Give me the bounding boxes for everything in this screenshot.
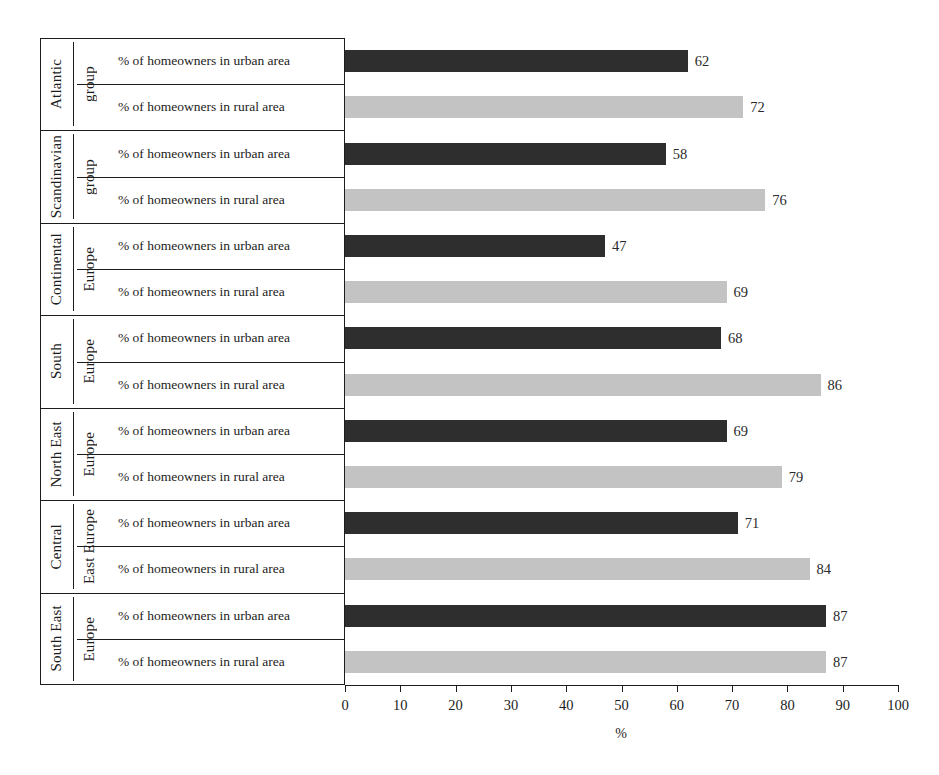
bar-value-label: 68 — [728, 327, 743, 349]
series-label-text: % of homeowners in urban area — [118, 146, 290, 162]
x-axis-tick — [787, 685, 788, 692]
series-label-text: % of homeowners in rural area — [118, 561, 285, 577]
category-label-line1: Atlantic — [40, 38, 73, 130]
x-axis-tick — [843, 685, 844, 692]
bar-rural — [345, 651, 826, 673]
bar-urban — [345, 235, 605, 257]
bar-urban — [345, 143, 666, 165]
series-label-urban: % of homeowners in urban area — [105, 593, 345, 639]
x-axis-tick — [456, 685, 457, 692]
x-axis-tick-label: 30 — [504, 697, 519, 714]
bar-value-label: 69 — [734, 281, 749, 303]
series-label-rural: % of homeowners in rural area — [105, 177, 345, 223]
series-label-rural: % of homeowners in rural area — [105, 546, 345, 592]
series-label-urban: % of homeowners in urban area — [105, 130, 345, 176]
row-separator — [77, 269, 345, 270]
bar-rural — [345, 96, 743, 118]
x-axis-tick-label: 50 — [614, 697, 629, 714]
row-separator — [77, 84, 345, 85]
series-label-urban: % of homeowners in urban area — [105, 223, 345, 269]
bar-value-label: 84 — [817, 558, 832, 580]
series-label-rural: % of homeowners in rural area — [105, 84, 345, 130]
x-axis-title: % — [615, 726, 627, 742]
category-label-text: Atlantic — [49, 59, 64, 109]
x-axis-tick-label: 0 — [341, 697, 348, 714]
bar-rural — [345, 558, 810, 580]
series-label-text: % of homeowners in urban area — [118, 53, 290, 69]
x-axis-tick — [898, 685, 899, 692]
bar-urban — [345, 327, 721, 349]
category-label-text: South East — [49, 605, 64, 672]
series-label-text: % of homeowners in urban area — [118, 608, 290, 624]
bar-rural — [345, 281, 727, 303]
bar-value-label: 79 — [789, 466, 804, 488]
x-axis-tick-label: 70 — [725, 697, 740, 714]
category-column-divider — [73, 504, 74, 588]
x-axis-tick — [732, 685, 733, 692]
category-label-text: South — [49, 343, 64, 379]
x-axis-tick-label: 80 — [780, 697, 795, 714]
series-label-rural: % of homeowners in rural area — [105, 269, 345, 315]
series-label-urban: % of homeowners in urban area — [105, 315, 345, 361]
series-label-text: % of homeowners in rural area — [118, 192, 285, 208]
series-label-text: % of homeowners in urban area — [118, 423, 290, 439]
category-column-divider — [73, 412, 74, 496]
category-label-line1: Continental — [40, 223, 73, 315]
x-axis-tick — [511, 685, 512, 692]
series-label-text: % of homeowners in urban area — [118, 238, 290, 254]
series-label-text: % of homeowners in rural area — [118, 469, 285, 485]
bar-value-label: 58 — [673, 143, 688, 165]
series-label-text: % of homeowners in rural area — [118, 99, 285, 115]
series-label-rural: % of homeowners in rural area — [105, 639, 345, 685]
x-axis-tick-label: 100 — [887, 697, 909, 714]
series-label-urban: % of homeowners in urban area — [105, 500, 345, 546]
bar-rural — [345, 466, 782, 488]
category-column-divider — [73, 134, 74, 218]
x-axis-tick — [622, 685, 623, 692]
bar-urban — [345, 420, 727, 442]
x-axis-tick-label: 90 — [835, 697, 850, 714]
x-axis-tick-label: 20 — [448, 697, 463, 714]
bar-urban — [345, 605, 826, 627]
bar-rural — [345, 374, 821, 396]
bar-urban — [345, 50, 688, 72]
category-label-text: North East — [49, 421, 64, 488]
series-label-text: % of homeowners in rural area — [118, 284, 285, 300]
row-separator — [77, 454, 345, 455]
bar-value-label: 87 — [833, 605, 848, 627]
row-separator — [77, 177, 345, 178]
x-axis-tick — [677, 685, 678, 692]
x-axis-tick-label: 40 — [559, 697, 574, 714]
series-label-rural: % of homeowners in rural area — [105, 362, 345, 408]
category-label-text: Scandinavian — [49, 135, 64, 218]
category-label-line1: Scandinavian — [40, 130, 73, 222]
row-separator — [77, 362, 345, 363]
category-column-divider — [73, 319, 74, 403]
x-axis-tick-label: 10 — [393, 697, 408, 714]
series-label-text: % of homeowners in rural area — [118, 654, 285, 670]
category-column-divider — [73, 597, 74, 681]
category-label-line1: Central — [40, 500, 73, 592]
bar-value-label: 62 — [695, 50, 710, 72]
series-label-urban: % of homeowners in urban area — [105, 38, 345, 84]
series-label-text: % of homeowners in rural area — [118, 377, 285, 393]
bar-value-label: 47 — [612, 235, 627, 257]
category-column-divider — [73, 227, 74, 311]
x-axis-tick-label: 60 — [670, 697, 685, 714]
bar-value-label: 72 — [750, 96, 765, 118]
series-label-urban: % of homeowners in urban area — [105, 408, 345, 454]
series-label-text: % of homeowners in urban area — [118, 330, 290, 346]
bar-urban — [345, 512, 738, 534]
category-label-line1: South — [40, 315, 73, 407]
category-label-text: Continental — [49, 233, 64, 305]
row-separator — [77, 546, 345, 547]
bar-value-label: 69 — [734, 420, 749, 442]
bar-value-label: 71 — [745, 512, 760, 534]
series-label-text: % of homeowners in urban area — [118, 515, 290, 531]
bar-rural — [345, 189, 765, 211]
category-label-line1: North East — [40, 408, 73, 500]
row-separator — [77, 639, 345, 640]
x-axis-tick — [400, 685, 401, 692]
x-axis-tick — [566, 685, 567, 692]
x-axis-tick — [345, 685, 346, 692]
